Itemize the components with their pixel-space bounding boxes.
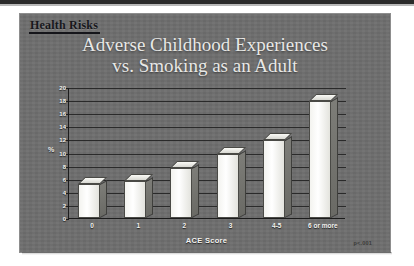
bar-front-face [124, 181, 146, 218]
y-axis-tick-mark [66, 206, 69, 207]
page-top-rule [0, 0, 414, 4]
bar-side-face [285, 136, 292, 218]
x-axis-category-label: 1 [136, 222, 140, 229]
y-axis-tick-label: 14 [59, 124, 66, 130]
gridline [69, 180, 346, 181]
bar-column [263, 140, 285, 218]
y-axis-tick-mark [66, 127, 69, 128]
chart-plot-wrapper: % 0246810121416182001234-56 or more ACE … [20, 14, 390, 252]
gridline [69, 154, 346, 155]
y-axis-tick-mark [66, 101, 69, 102]
bar-side-face [146, 177, 153, 218]
y-axis-tick-label: 12 [59, 137, 66, 143]
bar-side-face [192, 164, 199, 218]
bar-column [170, 168, 192, 218]
p-value-annotation: p<.001 [354, 240, 372, 246]
y-axis-tick-label: 16 [59, 111, 66, 117]
gridline [69, 167, 346, 168]
x-axis-category-label: 0 [90, 222, 94, 229]
gridline [69, 88, 346, 89]
bar-side-face [100, 180, 107, 218]
gridline [69, 127, 346, 128]
y-axis-tick-label: 18 [59, 98, 66, 104]
y-axis-tick-mark [66, 140, 69, 141]
gridline [69, 140, 346, 141]
y-axis-tick-mark [66, 180, 69, 181]
y-axis-tick-mark [66, 193, 69, 194]
y-axis-tick-mark [66, 167, 69, 168]
bar-side-face [239, 150, 246, 218]
y-axis-tick-mark [66, 154, 69, 155]
y-axis-tick-mark [66, 88, 69, 89]
bar-front-face [78, 184, 100, 218]
gridline [69, 206, 346, 207]
bar-column [124, 181, 146, 218]
x-axis-category-label: 3 [229, 222, 233, 229]
y-axis-tick-mark [66, 114, 69, 115]
bar-front-face [263, 140, 285, 218]
bar-column [217, 154, 239, 218]
x-axis-category-label: 6 or more [308, 222, 338, 229]
x-axis-label: ACE Score [68, 236, 345, 245]
bar-column [309, 101, 331, 218]
y-axis-tick-label: 10 [59, 151, 66, 157]
y-axis-tick-label: 20 [59, 85, 66, 91]
x-axis-category-label: 2 [183, 222, 187, 229]
presentation-slide: Health Risks Adverse Childhood Experienc… [20, 14, 390, 252]
y-axis-label: % [48, 146, 54, 153]
bar-front-face [170, 168, 192, 218]
gridline [69, 114, 346, 115]
slide-drop-shadow [22, 252, 392, 255]
gridline [69, 101, 346, 102]
bar-column [78, 184, 100, 218]
bar-front-face [217, 154, 239, 218]
y-axis-tick-mark [66, 219, 69, 220]
gridline [69, 193, 346, 194]
x-axis-category-label: 4-5 [272, 222, 281, 229]
chart-plot-area: 0246810121416182001234-56 or more [68, 88, 345, 219]
bar-side-face [331, 98, 338, 218]
bar-front-face [309, 101, 331, 218]
